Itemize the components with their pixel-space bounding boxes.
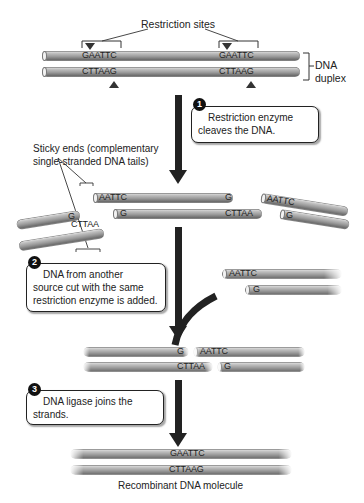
annealed-top-left-seq: G <box>177 346 184 356</box>
step-3-box: DNA ligase joins the strands. <box>26 390 164 425</box>
arrow-shaft-1 <box>175 95 182 171</box>
recombinant-bottom-seq: CTTAAG <box>169 464 204 474</box>
step-3-text-line2: strands. <box>33 408 157 421</box>
annealed-top-right-seq: AATTC <box>200 346 228 356</box>
site-seq-top-right: GAATTC <box>219 50 254 60</box>
step-3-badge: 3 <box>28 383 41 396</box>
sticky-ends-label-line1: Sticky ends (complementary <box>33 142 159 155</box>
step-2-text-line2: source cut with the same <box>33 281 159 294</box>
foreign-dna-top-start: AATTC <box>229 268 257 278</box>
dna-strand-top <box>42 51 300 61</box>
cut-site-marker-top-left <box>85 43 95 50</box>
arrow-shaft-3 <box>175 380 182 434</box>
fragment-middle-bottom-start: G <box>120 208 127 218</box>
fragment-middle-top-end: G <box>225 192 232 202</box>
cut-site-marker-top-right <box>222 43 232 50</box>
annealed-bottom-left-seq: CTTAA <box>177 361 205 371</box>
dna-strand-bottom <box>42 67 300 77</box>
site-seq-bottom-right: CTTAAG <box>219 66 254 76</box>
fragment-right-bottom-start: G <box>286 210 293 220</box>
dna-duplex-label-line2: duplex <box>315 72 346 85</box>
sticky-ends-label-line2: single-stranded DNA tails) <box>33 155 149 168</box>
step-1-text-line1: Restriction enzyme <box>208 112 293 123</box>
dna-duplex-label-line1: DNA <box>315 59 337 72</box>
annealed-bottom-right-seq: G <box>224 361 231 371</box>
arrow-head-2 <box>169 326 187 340</box>
step-2-text-line1: DNA from another <box>43 269 123 280</box>
arrow-shaft-2 <box>175 227 182 327</box>
foreign-dna-bottom-start: G <box>253 284 260 294</box>
cut-site-marker-bottom-left <box>109 81 119 88</box>
arrow-head-1 <box>169 170 187 184</box>
fragment-middle-top-start: AATTC <box>99 192 127 202</box>
arrow-head-3 <box>169 433 187 447</box>
annealed-top-left <box>83 347 189 357</box>
step-3-text-line1: DNA ligase joins the <box>43 396 133 407</box>
step-2-box: DNA from another source cut with the sam… <box>26 263 166 312</box>
step-1-badge: 1 <box>193 98 206 111</box>
step-1-text-line2: cleaves the DNA. <box>198 124 312 137</box>
recombinant-top-seq: GAATTC <box>170 448 205 458</box>
recombinant-label: Recombinant DNA molecule <box>118 479 243 492</box>
step-2-text-line3: restriction enzyme is added. <box>33 294 159 307</box>
step-1-box: Restriction enzyme cleaves the DNA. <box>191 106 319 143</box>
fragment-middle-bottom-end: CTTAA <box>225 208 253 218</box>
cut-site-marker-bottom-right <box>246 81 256 88</box>
fragment-left-bottom-end: CTTAA <box>71 219 99 229</box>
site-seq-top-left: GAATTC <box>82 50 117 60</box>
step-2-badge: 2 <box>28 256 41 269</box>
site-seq-bottom-left: CTTAAG <box>82 66 117 76</box>
